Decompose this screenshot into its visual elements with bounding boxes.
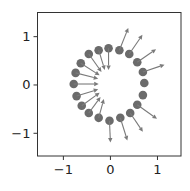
- data-point-marker: [126, 109, 135, 118]
- quiver-chart: −101 −101: [0, 0, 190, 191]
- x-tick-label: 1: [153, 162, 161, 177]
- y-tick-label: 1: [22, 29, 30, 44]
- y-tick-label: 0: [22, 77, 30, 92]
- x-tick-label: −1: [54, 162, 73, 177]
- data-point-marker: [139, 91, 148, 100]
- data-point-marker: [84, 50, 93, 59]
- data-point-marker: [94, 46, 103, 55]
- y-tick-label: −1: [11, 126, 30, 141]
- data-point-marker: [140, 79, 149, 88]
- data-point-marker: [71, 69, 80, 78]
- data-point-marker: [72, 92, 81, 101]
- x-tick-label: 0: [106, 162, 114, 177]
- data-point-marker: [116, 114, 125, 123]
